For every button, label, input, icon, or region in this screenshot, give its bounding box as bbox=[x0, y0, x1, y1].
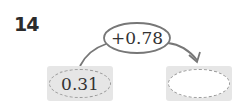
answer-input[interactable] bbox=[168, 69, 230, 98]
answer-box[interactable] bbox=[166, 66, 232, 101]
start-value-box: 0.31 bbox=[47, 66, 113, 101]
operation-label: +0.78 bbox=[103, 23, 171, 53]
start-value: 0.31 bbox=[49, 69, 111, 98]
